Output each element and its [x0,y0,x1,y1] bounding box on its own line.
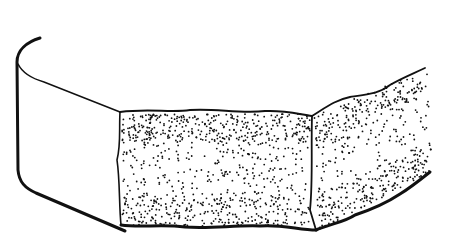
bread-slab-illustration [0,0,456,237]
front-face-left-edge [117,112,121,225]
front-face-bottom-edge [121,225,316,230]
stipple-texture [121,73,432,229]
outer-crust-line [17,38,125,231]
inner-crust-edge [18,64,120,112]
face-divider-edge [310,116,316,230]
